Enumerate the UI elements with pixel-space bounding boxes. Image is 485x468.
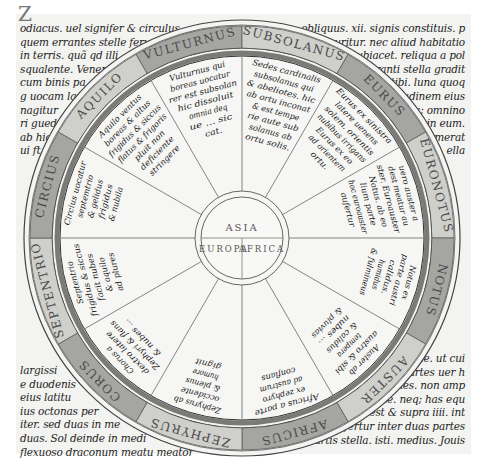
wind-diagram: VULTURNUSSUBSOLANUSEURUSEURONOTUSNOTUSAU… xyxy=(0,0,485,468)
map-label-africa: AFRICA xyxy=(238,244,285,254)
map-label-asia: ASIA xyxy=(224,222,258,233)
